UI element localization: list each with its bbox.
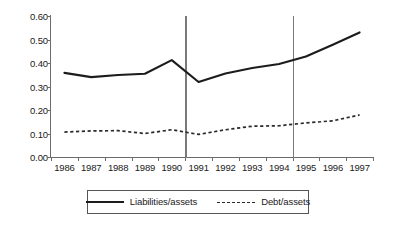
x-tick-label: 1995 xyxy=(296,163,316,173)
plot-area xyxy=(51,16,373,157)
y-tick-label: 0.60 xyxy=(6,12,48,22)
x-tick-label: 1991 xyxy=(188,163,208,173)
dashed-line-icon xyxy=(217,202,255,203)
x-axis-labels: 1986 1987 1988 1989 1990 1991 1992 1993 … xyxy=(51,163,373,177)
legend-label: Debt/assets xyxy=(261,197,310,207)
series-line-debt-assets xyxy=(64,115,359,135)
legend-entry-liabilities-assets: Liabilities/assets xyxy=(86,197,197,207)
x-tick-label: 1997 xyxy=(349,163,369,173)
x-tick-label: 1989 xyxy=(135,163,155,173)
x-tick-label: 1990 xyxy=(162,163,182,173)
x-tick-label: 1986 xyxy=(54,163,74,173)
x-tick-label: 1988 xyxy=(108,163,128,173)
chart-figure: 0.60 0.50 0.40 0.30 0.20 0.10 0.00 1986 xyxy=(0,0,393,225)
y-tick-label: 0.10 xyxy=(6,130,48,140)
x-tick-mark xyxy=(266,157,267,161)
y-tick-label: 0.50 xyxy=(6,36,48,46)
x-tick-mark xyxy=(346,157,347,161)
legend-label: Liabilities/assets xyxy=(130,197,197,207)
series-canvas xyxy=(51,16,373,157)
x-tick-mark xyxy=(132,157,133,161)
x-tick-mark xyxy=(78,157,79,161)
y-axis-labels: 0.60 0.50 0.40 0.30 0.20 0.10 0.00 xyxy=(0,0,48,225)
x-tick-label: 1993 xyxy=(242,163,262,173)
x-tick-label: 1994 xyxy=(269,163,289,173)
x-tick-label: 1987 xyxy=(81,163,101,173)
x-tick-mark xyxy=(212,157,213,161)
x-tick-label: 1996 xyxy=(323,163,343,173)
x-tick-label: 1992 xyxy=(215,163,235,173)
series-line-liabilities-assets xyxy=(64,32,359,82)
x-tick-mark xyxy=(51,157,52,161)
x-tick-mark xyxy=(239,157,240,161)
solid-line-icon xyxy=(86,201,124,203)
y-tick-label: 0.30 xyxy=(6,83,48,93)
x-tick-mark xyxy=(105,157,106,161)
legend-entry-debt-assets: Debt/assets xyxy=(217,197,310,207)
y-tick-label: 0.00 xyxy=(6,153,48,163)
x-tick-mark xyxy=(158,157,159,161)
y-tick-label: 0.20 xyxy=(6,106,48,116)
x-tick-mark xyxy=(373,157,374,161)
chart-legend: Liabilities/assets Debt/assets xyxy=(87,190,309,214)
x-tick-mark xyxy=(319,157,320,161)
y-tick-label: 0.40 xyxy=(6,59,48,69)
